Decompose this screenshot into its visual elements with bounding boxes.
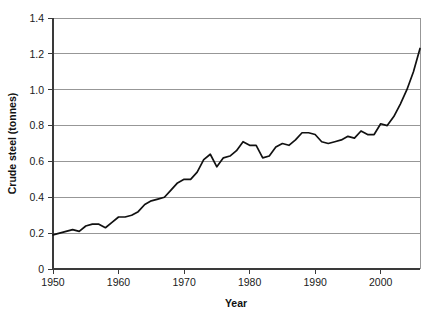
gridlines-group	[53, 18, 420, 233]
data-series-line-crude-steel	[53, 48, 420, 234]
x-tick-label-1960: 1960	[107, 276, 131, 288]
x-tick-label-1970: 1970	[172, 276, 196, 288]
x-tick-label-1950: 1950	[41, 276, 65, 288]
x-tick-label-1990: 1990	[304, 276, 328, 288]
plot-frame-group	[53, 18, 420, 269]
y-tick-label-1.2: 1.2	[29, 48, 44, 60]
x-axis-title: Year	[225, 297, 247, 309]
y-tick-labels-group: 1.4 1.2 1.0 0.8 0.6 0.4 0.2 0	[29, 12, 44, 275]
y-tick-marks-group	[48, 18, 53, 269]
y-tick-label-0.6: 0.6	[29, 155, 44, 167]
x-tick-label-2000: 2000	[369, 276, 393, 288]
y-tick-label-1.0: 1.0	[29, 84, 44, 96]
x-tick-label-1980: 1980	[238, 276, 262, 288]
line-chart-crude-steel: 1.4 1.2 1.0 0.8 0.6 0.4 0.2 0 1950 1960 …	[0, 0, 437, 319]
y-tick-label-1.4: 1.4	[29, 12, 44, 24]
y-tick-label-0.4: 0.4	[29, 191, 44, 203]
x-tick-labels-group: 1950 1960 1970 1980 1990 2000	[41, 276, 392, 288]
x-tick-marks-group	[53, 269, 381, 274]
y-tick-label-0.2: 0.2	[29, 227, 44, 239]
y-tick-label-0: 0	[38, 263, 44, 275]
y-tick-label-0.8: 0.8	[29, 119, 44, 131]
y-axis-title: Crude steel (tonnes)	[6, 93, 18, 195]
chart-figure: 1.4 1.2 1.0 0.8 0.6 0.4 0.2 0 1950 1960 …	[0, 0, 437, 319]
